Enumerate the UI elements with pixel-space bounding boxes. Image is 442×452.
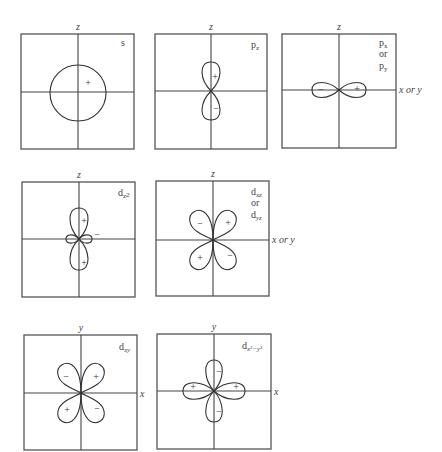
panel-dxz-dyz: z x or y dxz or dyz − + + − xyxy=(156,168,295,296)
axis-label-x-or-y: x or y xyxy=(398,84,422,95)
axis-label-x: x xyxy=(139,388,145,399)
axis-label-z: z xyxy=(208,21,213,32)
phase-sign-minus-top: − xyxy=(216,366,222,377)
phase-sign-plus: + xyxy=(212,71,218,82)
panel-dx2-y2: y x dx²−y² − + + − xyxy=(157,321,279,449)
phase-sign-minus-lr: − xyxy=(227,250,233,261)
orbital-label-dyz: dyz xyxy=(251,209,262,222)
panel-dz2: z dz2 + + − xyxy=(22,169,135,297)
lobe-lower-right xyxy=(81,393,104,423)
panel-s: z s + xyxy=(21,21,134,149)
phase-sign-plus-ur: + xyxy=(93,371,99,382)
lobe-upper-left xyxy=(58,363,81,393)
orbital-label: s xyxy=(121,37,125,48)
phase-sign-plus-bottom: + xyxy=(81,257,87,268)
orbital-label-or: or xyxy=(251,197,260,208)
orbital-label-py: py xyxy=(379,60,388,73)
phase-sign-minus-bottom: − xyxy=(216,406,222,417)
phase-sign-plus: + xyxy=(85,77,91,88)
phase-sign-plus-right: + xyxy=(233,381,239,392)
axis-label-z: z xyxy=(75,21,80,32)
phase-sign-minus-ul: − xyxy=(63,371,69,382)
orbital-label: dz2 xyxy=(118,187,130,200)
axis-label-y: y xyxy=(211,321,217,332)
axis-label-z: z xyxy=(210,168,215,179)
phase-sign-plus: + xyxy=(354,83,360,94)
axis-label-y: y xyxy=(78,322,84,333)
panel-px-py: z x or y px or py − + xyxy=(282,21,422,148)
orbital-label: dxy xyxy=(119,341,131,354)
axis-label-x: x xyxy=(273,386,279,397)
panel-dxy: y x dxy − + + − xyxy=(24,322,145,450)
orbital-label: pz xyxy=(251,39,259,52)
phase-sign-plus-top: + xyxy=(81,215,87,226)
panel-pz: z pz + − xyxy=(155,21,267,149)
orbital-label-or: or xyxy=(379,48,388,59)
axis-label-z: z xyxy=(336,21,341,32)
orbital-label: dx²−y² xyxy=(242,340,263,353)
phase-sign-minus-lr: − xyxy=(94,403,100,414)
axis-label-z: z xyxy=(76,169,81,180)
phase-sign-plus-ll: + xyxy=(64,404,70,415)
orbital-diagram: z s + z pz + − z x or y px or py − + xyxy=(0,0,442,452)
phase-sign-minus: − xyxy=(213,103,219,114)
phase-sign-plus-ur: + xyxy=(225,217,231,228)
phase-sign-minus-ul: − xyxy=(197,218,203,229)
phase-sign-plus-left: + xyxy=(190,381,196,392)
phase-sign-minus: − xyxy=(94,229,100,240)
phase-sign-plus-ll: + xyxy=(197,252,203,263)
axis-label-x-or-y: x or y xyxy=(271,234,295,245)
phase-sign-minus: − xyxy=(318,84,324,95)
